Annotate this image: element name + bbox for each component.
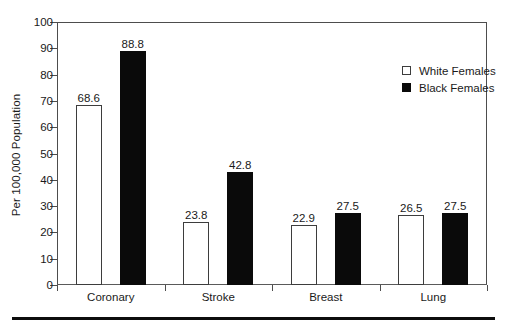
bar: 22.9	[291, 225, 317, 285]
bar: 27.5	[442, 213, 468, 285]
bar: 88.8	[120, 51, 146, 285]
bar-value-label: 27.5	[337, 200, 359, 212]
y-tick-label: 20	[40, 226, 53, 238]
y-tick-label: 40	[40, 174, 53, 186]
bar-value-label: 88.8	[122, 38, 144, 50]
legend-label: White Females	[419, 65, 496, 77]
x-axis-category-label: Stroke	[202, 291, 235, 303]
bar: 23.8	[183, 222, 209, 285]
y-tick-label: 70	[40, 95, 53, 107]
legend-item: Black Females	[402, 80, 496, 95]
bar: 26.5	[398, 215, 424, 285]
x-tick-mark	[57, 285, 58, 291]
y-tick-label: 80	[40, 69, 53, 81]
plot-frame-right	[486, 22, 487, 285]
legend: White FemalesBlack Females	[402, 63, 496, 97]
y-tick-label: 60	[40, 121, 53, 133]
plot-frame-top	[57, 22, 487, 23]
y-tick-label: 30	[40, 200, 53, 212]
bar: 42.8	[227, 172, 253, 285]
bar: 68.6	[76, 105, 102, 285]
y-tick-label: 10	[40, 253, 53, 265]
y-axis-line	[57, 22, 58, 285]
bar: 27.5	[335, 213, 361, 285]
bar-value-label: 26.5	[400, 202, 422, 214]
filled-square-icon	[402, 83, 411, 92]
bar-value-label: 22.9	[293, 212, 315, 224]
x-tick-mark	[380, 285, 381, 291]
bar-value-label: 27.5	[444, 200, 466, 212]
bar-value-label: 68.6	[78, 92, 100, 104]
legend-label: Black Females	[419, 82, 494, 94]
y-tick-label: 50	[40, 148, 53, 160]
y-tick-label: 90	[40, 42, 53, 54]
x-axis-category-label: Breast	[309, 291, 342, 303]
bar-value-label: 23.8	[185, 209, 207, 221]
x-tick-mark	[272, 285, 273, 291]
x-axis-category-label: Coronary	[87, 291, 134, 303]
y-axis-title: Per 100,000 Population	[10, 45, 22, 265]
x-tick-mark	[487, 285, 488, 291]
bar-chart-figure: Per 100,000 Population 01020304050607080…	[0, 0, 506, 328]
y-tick-label: 0	[47, 279, 53, 291]
bar-value-label: 42.8	[229, 159, 251, 171]
bottom-divider-rule	[12, 317, 495, 320]
x-axis-category-label: Lung	[420, 291, 446, 303]
plot-area: 0102030405060708090100 68.688.823.842.82…	[57, 22, 487, 285]
x-tick-mark	[165, 285, 166, 291]
legend-item: White Females	[402, 63, 496, 78]
y-tick-label: 100	[34, 16, 53, 28]
open-square-icon	[402, 66, 411, 75]
